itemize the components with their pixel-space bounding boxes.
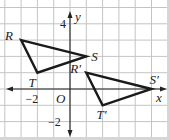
background xyxy=(0,0,170,140)
y-tick-label: 4 xyxy=(60,17,66,31)
y-axis-label: y xyxy=(73,9,81,24)
vertex-label-t: T xyxy=(28,75,36,90)
vertex-label-r-prime: R′ xyxy=(69,61,81,76)
vertex-label-s-prime: S′ xyxy=(150,72,160,87)
y-tick-label: −2 xyxy=(48,115,61,129)
origin-label: O xyxy=(56,91,66,106)
bottom-border xyxy=(0,137,170,140)
x-axis-label: x xyxy=(155,90,162,105)
x-tick-label: −2 xyxy=(25,92,38,106)
coordinate-plane: xyO4−2−2RSTR′S′T′ xyxy=(0,0,170,140)
vertex-label-r: R xyxy=(4,28,13,43)
right-border xyxy=(167,0,170,140)
vertex-label-s: S xyxy=(91,49,98,64)
vertex-label-t-prime: T′ xyxy=(97,107,107,122)
